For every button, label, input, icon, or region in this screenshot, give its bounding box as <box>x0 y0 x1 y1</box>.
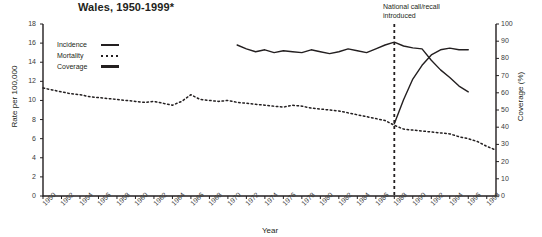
y-tick-left: 16 <box>16 39 36 47</box>
series-line-incidence <box>237 42 468 92</box>
y-tick-right: 20 <box>501 158 523 166</box>
y-tick-left: 8 <box>16 116 36 124</box>
y-tick-right: 90 <box>501 37 523 45</box>
y-tick-left: 4 <box>16 154 36 162</box>
y-tick-right: 100 <box>501 20 523 28</box>
y-tick-left: 12 <box>16 77 36 85</box>
y-tick-right: 80 <box>501 54 523 62</box>
y-tick-right: 50 <box>501 106 523 114</box>
y-tick-right: 0 <box>501 192 523 200</box>
axes-layer <box>40 24 499 199</box>
y-tick-left: 10 <box>16 96 36 104</box>
y-tick-right: 70 <box>501 72 523 80</box>
y-tick-left: 14 <box>16 58 36 66</box>
series-layer <box>43 42 496 150</box>
y-tick-left: 6 <box>16 135 36 143</box>
series-line-mortality <box>43 88 496 150</box>
axis-spines <box>43 24 496 196</box>
y-tick-right: 40 <box>501 123 523 131</box>
y-tick-left: 0 <box>16 192 36 200</box>
y-tick-right: 60 <box>501 89 523 97</box>
y-tick-left: 18 <box>16 20 36 28</box>
y-tick-right: 30 <box>501 140 523 148</box>
y-tick-right: 10 <box>501 175 523 183</box>
y-tick-left: 2 <box>16 173 36 181</box>
chart-figure: Wales, 1950-1999* Rate per 100,000 Cover… <box>0 0 542 237</box>
